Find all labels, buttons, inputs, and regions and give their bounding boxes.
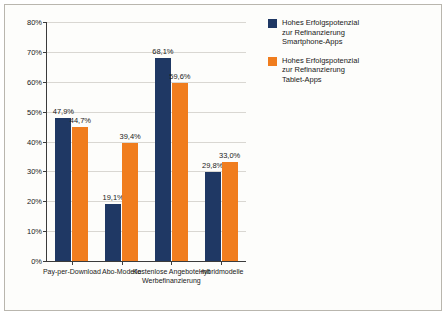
- legend-line-3: Smartphone-Apps: [282, 37, 342, 46]
- legend-item: Hohes Erfolgspotenzial zur Refinanzierun…: [268, 18, 428, 47]
- y-axis-tick-label: 20%: [27, 197, 42, 206]
- legend-item: Hohes Erfolgspotenzial zur Refinanzierun…: [268, 56, 428, 85]
- bars: 47,9%44,7%: [47, 22, 97, 261]
- bars: 19,1%39,4%: [97, 22, 147, 261]
- y-axis-tick-label: 50%: [27, 107, 42, 116]
- bar: 44,7%: [72, 127, 88, 261]
- chart-legend: Hohes Erfolgspotenzial zur Refinanzierun…: [268, 18, 428, 93]
- bar-group: 47,9%44,7%Pay-per-Download: [47, 22, 97, 261]
- bar-value-label: 33,0%: [219, 151, 240, 160]
- bar-value-label: 68,1%: [152, 47, 173, 56]
- legend-line-2: zur Refinanzierung: [282, 28, 345, 37]
- legend-label-smartphone: Hohes Erfolgspotenzial zur Refinanzierun…: [282, 18, 359, 47]
- y-axis-tick-label: 60%: [27, 77, 42, 86]
- bar: 68,1%: [155, 58, 171, 261]
- x-axis-category-label: Hybridmodelle: [182, 268, 260, 277]
- bar: 33,0%: [222, 162, 238, 261]
- bar-group: 68,1%59,6%Kostenlose Angebote mit Werbef…: [147, 22, 197, 261]
- plot-area: 0%10%20%30%40%50%60%70%80%47,9%44,7%Pay-…: [46, 22, 246, 262]
- bar: 47,9%: [55, 118, 71, 261]
- y-axis-tick-label: 80%: [27, 18, 42, 27]
- legend-line-3: Tablet-Apps: [282, 75, 322, 84]
- y-axis-tick-label: 70%: [27, 47, 42, 56]
- legend-swatch-smartphone: [268, 19, 277, 28]
- legend-line-1: Hohes Erfolgspotenzial: [282, 18, 359, 27]
- x-tick-mark: [122, 261, 123, 265]
- bar-value-label: 39,4%: [119, 132, 140, 141]
- y-tick-mark: [43, 261, 47, 262]
- legend-label-tablet: Hohes Erfolgspotenzial zur Refinanzierun…: [282, 56, 359, 85]
- bar-group: 19,1%39,4%Abo-Modelle: [97, 22, 147, 261]
- bars: 29,8%33,0%: [196, 22, 246, 261]
- chart-figure: 0%10%20%30%40%50%60%70%80%47,9%44,7%Pay-…: [0, 0, 446, 315]
- bar-value-label: 19,1%: [102, 193, 123, 202]
- bar: 39,4%: [122, 143, 138, 261]
- bar-group: 29,8%33,0%Hybridmodelle: [196, 22, 246, 261]
- bar: 19,1%: [105, 204, 121, 261]
- bar-value-label: 29,8%: [202, 161, 223, 170]
- bar-value-label: 44,7%: [70, 116, 91, 125]
- legend-line-1: Hohes Erfolgspotenzial: [282, 56, 359, 65]
- legend-line-2: zur Refinanzierung: [282, 65, 345, 74]
- bars: 68,1%59,6%: [147, 22, 197, 261]
- x-tick-mark: [171, 261, 172, 265]
- bar: 29,8%: [205, 172, 221, 261]
- legend-swatch-tablet: [268, 57, 277, 66]
- x-tick-mark: [72, 261, 73, 265]
- bar: 59,6%: [172, 83, 188, 261]
- y-axis-tick-label: 40%: [27, 137, 42, 146]
- bar-value-label: 59,6%: [169, 72, 190, 81]
- y-axis-tick-label: 30%: [27, 167, 42, 176]
- y-axis-tick-label: 10%: [27, 227, 42, 236]
- bar-value-label: 47,9%: [53, 107, 74, 116]
- x-tick-mark: [221, 261, 222, 265]
- y-axis-tick-label: 0%: [31, 257, 42, 266]
